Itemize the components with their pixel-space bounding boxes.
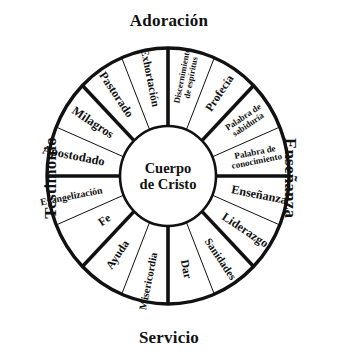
quadrant-label-testimonio: Testimonio xyxy=(42,137,59,219)
quadrant-label-servicio: Servicio xyxy=(0,329,338,346)
quadrant-label-adoracion: Adoración xyxy=(0,12,338,29)
quadrant-label-ensenanza: Enseñanza xyxy=(281,137,298,217)
center-hub-circle xyxy=(120,126,216,226)
gifts-wheel-diagram: Adoración Enseñanza Servicio Testimonio … xyxy=(0,0,338,355)
